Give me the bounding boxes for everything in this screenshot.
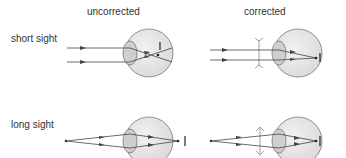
eye-short-sight-uncorrected: [67, 29, 173, 77]
eye-short-sight-corrected: [210, 29, 322, 77]
eye-long-sight-uncorrected: [65, 117, 185, 158]
eye-long-sight-corrected: [210, 117, 322, 158]
vision-correction-diagram: [0, 0, 346, 158]
